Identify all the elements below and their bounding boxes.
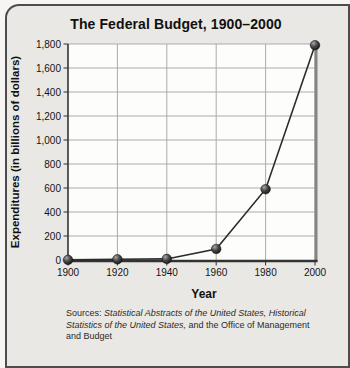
sources-line: and Budget bbox=[66, 331, 309, 343]
sources-line: Statistics of the United States, and the… bbox=[66, 320, 309, 332]
data-point bbox=[211, 244, 221, 254]
y-tick-labels: 02004006008001,0001,2001,4001,6001,800 bbox=[36, 39, 61, 266]
y-tick-label: 1,200 bbox=[36, 111, 61, 122]
y-tick-label: 1,400 bbox=[36, 87, 61, 98]
x-tick-label: 1900 bbox=[57, 267, 80, 278]
data-point bbox=[113, 254, 123, 264]
y-axis-title: Expenditures (in billions of dollars) bbox=[9, 56, 21, 248]
sources-text-segment: and the Office of Management bbox=[186, 320, 309, 330]
sources-note: Sources: Statistical Abstracts of the Un… bbox=[66, 308, 309, 343]
y-tick-label: 800 bbox=[44, 159, 61, 170]
data-point bbox=[63, 255, 73, 265]
sources-text-segment: and Budget bbox=[66, 331, 112, 341]
y-tick-label: 600 bbox=[44, 183, 61, 194]
y-tick-label: 200 bbox=[44, 231, 61, 242]
y-tick-label: 0 bbox=[55, 255, 61, 266]
x-tick-label: 1960 bbox=[205, 267, 228, 278]
y-tick-label: 400 bbox=[44, 207, 61, 218]
x-tick-label: 2000 bbox=[304, 267, 327, 278]
x-tick-label: 1980 bbox=[254, 267, 277, 278]
data-point bbox=[261, 184, 271, 194]
data-point bbox=[162, 254, 172, 264]
x-axis-title: Year bbox=[191, 287, 217, 301]
data-point bbox=[310, 40, 320, 50]
sources-title-segment: Historical bbox=[269, 308, 306, 318]
sources-line: Sources: Statistical Abstracts of the Un… bbox=[66, 308, 309, 320]
y-tick-label: 1,600 bbox=[36, 63, 61, 74]
sources-title-segment: Statistics of the United States, bbox=[66, 320, 186, 330]
x-tick-labels: 190019201940196019802000 bbox=[57, 267, 327, 278]
y-tick-label: 1,800 bbox=[36, 39, 61, 50]
sources-text-segment: Sources: bbox=[66, 308, 104, 318]
x-tick-label: 1920 bbox=[106, 267, 129, 278]
x-tick-label: 1940 bbox=[156, 267, 179, 278]
sources-title-segment: Statistical Abstracts of the United Stat… bbox=[104, 308, 266, 318]
y-tick-label: 1,000 bbox=[36, 135, 61, 146]
